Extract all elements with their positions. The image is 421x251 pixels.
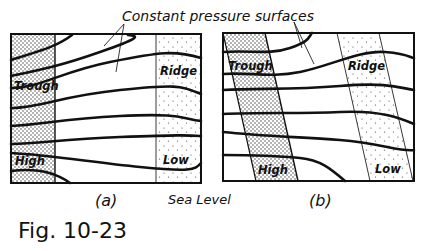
ridge-label-a: Ridge	[160, 64, 197, 78]
panel-b: Trough Ridge High Low	[223, 33, 414, 181]
high-label-b: High	[258, 163, 288, 177]
high-label-a: High	[15, 154, 45, 168]
trough-label-a: Trough	[14, 79, 59, 93]
trough-label-b: Trough	[228, 59, 273, 73]
trough-band-b	[223, 33, 298, 181]
figure: Constant pressure surfaces Trough Ridge …	[0, 0, 421, 251]
sea-level-label: Sea Level	[168, 192, 231, 207]
ridge-label-b: Ridge	[348, 59, 385, 73]
low-label-b: Low	[375, 162, 401, 176]
panel-a: Trough Ridge High Low	[11, 34, 201, 183]
low-label-a: Low	[163, 153, 189, 167]
title: Constant pressure surfaces	[122, 8, 314, 24]
figure-label: Fig. 10-23	[18, 218, 127, 243]
caption-b: (b)	[309, 191, 332, 210]
leader-lines	[104, 22, 314, 72]
caption-a: (a)	[95, 191, 117, 210]
